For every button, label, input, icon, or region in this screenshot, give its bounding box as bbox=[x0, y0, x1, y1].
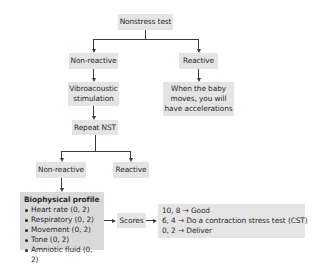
bp-item-movement: Movement (0, 2) bbox=[24, 225, 101, 235]
reactive-node-2: Reactive bbox=[113, 162, 149, 178]
connector bbox=[61, 151, 131, 152]
repeat-nst-node: Repeat NST bbox=[72, 120, 118, 135]
connector bbox=[93, 69, 94, 78]
connector bbox=[93, 39, 94, 49]
bp-item-tone: Tone (0, 2) bbox=[24, 235, 101, 245]
score-result-deliver: 0, 2 → Deliver bbox=[162, 226, 212, 236]
connector bbox=[93, 39, 199, 40]
repeat-nst-label: Repeat NST bbox=[74, 123, 116, 133]
bp-item-amniotic-fluid: Amniotic fluid (0, 2) bbox=[24, 245, 101, 265]
connector bbox=[198, 39, 199, 49]
non-reactive-label-2: Non-reactive bbox=[38, 165, 84, 175]
reactive-result-line-2: moves, you will bbox=[171, 94, 227, 104]
vibroacoustic-line-2: stimulation bbox=[73, 94, 113, 104]
non-reactive-node-2: Non-reactive bbox=[36, 162, 86, 178]
arrow-right-icon bbox=[153, 219, 157, 223]
bp-item-heart-rate: Heart rate (0, 2) bbox=[24, 205, 101, 215]
score-results-node: 10, 8 → Good 6, 4 → Do a contraction str… bbox=[158, 204, 305, 238]
connector bbox=[130, 151, 131, 158]
reactive-result-line-3: have accelerations bbox=[164, 104, 232, 114]
scores-node: Scores bbox=[117, 213, 146, 228]
connector bbox=[104, 220, 112, 221]
connector bbox=[61, 178, 62, 188]
reactive-label-2: Reactive bbox=[115, 165, 146, 175]
non-reactive-node-1: Non-reactive bbox=[69, 53, 118, 69]
vibroacoustic-stimulation-node: Vibroacoustic stimulation bbox=[68, 82, 119, 106]
scores-label: Scores bbox=[120, 216, 144, 226]
biophysical-profile-title: Biophysical profile bbox=[24, 195, 99, 205]
score-result-cst: 6, 4 → Do a contraction stress test (CST… bbox=[162, 216, 308, 226]
score-result-good: 10, 8 → Good bbox=[162, 206, 210, 216]
vibroacoustic-line-1: Vibroacoustic bbox=[69, 84, 117, 94]
biophysical-profile-node: Biophysical profile Heart rate (0, 2) Re… bbox=[20, 192, 104, 250]
connector bbox=[198, 69, 199, 78]
arrow-right-icon bbox=[112, 219, 116, 223]
reactive-node-1: Reactive bbox=[179, 53, 218, 69]
reactive-label: Reactive bbox=[183, 56, 214, 66]
reactive-result-line-1: When the baby bbox=[171, 84, 226, 94]
connector bbox=[146, 220, 153, 221]
bp-item-respiratory: Respiratory (0, 2) bbox=[24, 215, 101, 225]
connector bbox=[93, 106, 94, 116]
biophysical-profile-list: Heart rate (0, 2) Respiratory (0, 2) Mov… bbox=[24, 205, 101, 265]
connector bbox=[61, 151, 62, 158]
connector bbox=[145, 30, 146, 39]
connector bbox=[95, 135, 96, 151]
nonstress-test-node: Nonstress test bbox=[118, 14, 173, 30]
non-reactive-label: Non-reactive bbox=[70, 56, 116, 66]
reactive-result-node: When the baby moves, you will have accel… bbox=[163, 82, 234, 116]
nonstress-test-label: Nonstress test bbox=[120, 17, 172, 27]
